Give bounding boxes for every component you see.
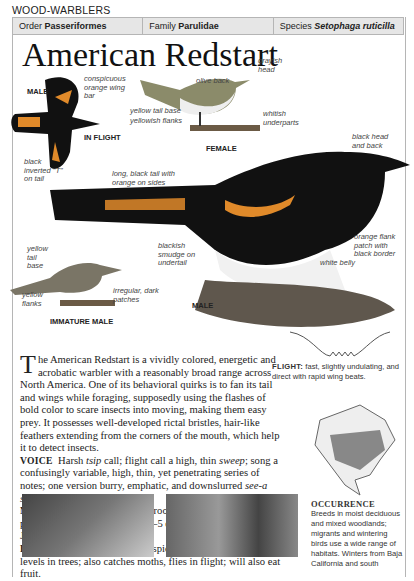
label-white-belly: white belly — [320, 259, 355, 268]
flight-sex-caption: MALE — [27, 87, 48, 96]
immature-male-caption: IMMATURE MALE — [50, 317, 113, 326]
label-yellowish-flanks: yellowish flanks — [130, 117, 182, 126]
photo-male-on-branch — [22, 494, 154, 557]
photo-bird-at-nest — [166, 494, 298, 557]
label-irregular-dark-patches: irregular, dark patches — [113, 287, 163, 304]
taxonomy-bar: Order Passeriformes Family Parulidae Spe… — [12, 17, 404, 35]
label-yellow-flanks: yellow flanks — [22, 291, 48, 308]
flight-description: FLIGHT: fast, slightly undulating, and d… — [272, 362, 404, 382]
range-map — [300, 400, 400, 500]
male-caption: MALE — [192, 301, 213, 310]
taxonomy-order: Order Passeriformes — [13, 18, 143, 34]
label-whitish-underparts: whitish underparts — [263, 110, 299, 127]
label-wing-bar: conspicuous orange wing bar — [84, 75, 134, 101]
label-yellow-tail-base: yellow tail base — [130, 107, 181, 116]
label-yellow-tail-base-immature: yellow tail base — [27, 245, 51, 271]
section-heading: WOOD-WARBLERS — [12, 4, 110, 16]
label-olive-back: olive back — [196, 77, 229, 86]
flight-pattern-diagram — [285, 330, 395, 360]
label-orange-flank-patch: orange flank patch with black border — [354, 233, 404, 259]
label-grayish-head: grayish head — [258, 57, 288, 74]
occurrence-section: OCCURRENCE Breeds in moist deciduous and… — [311, 499, 405, 569]
label-long-black-tail: long, black tail with orange on sides — [112, 170, 187, 187]
taxonomy-species: Species Setophaga ruticilla — [274, 18, 403, 34]
label-blackish-smudge: blackish smudge on undertail — [158, 242, 198, 268]
taxonomy-family: Family Parulidae — [143, 18, 273, 34]
label-black-head-back: black head and back — [352, 133, 400, 150]
page-title: American Redstart — [22, 36, 278, 74]
flight-caption: IN FLIGHT — [84, 133, 121, 142]
